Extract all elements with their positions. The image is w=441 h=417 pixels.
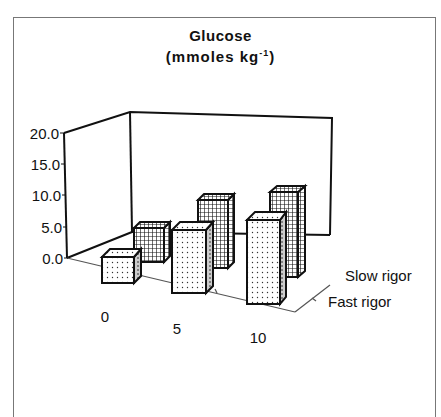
series-label-fast-rigor: Fast rigor xyxy=(328,293,391,310)
y-axis-labels: 20.0 15.0 10.0 5.0 0.0 xyxy=(30,125,63,267)
series-labels: Slow rigor Fast rigor xyxy=(328,267,412,310)
y-tick-label: 15.0 xyxy=(31,156,60,173)
bar-fast-10 xyxy=(247,212,286,304)
x-axis-labels: 0 5 10 xyxy=(101,308,267,346)
series-fast-rigor xyxy=(102,212,286,304)
y-tick-label: 0.0 xyxy=(42,250,63,267)
x-tick-label: 5 xyxy=(173,320,181,337)
bar-fast-5 xyxy=(172,222,213,293)
y-tick-label: 5.0 xyxy=(41,219,62,236)
series-label-slow-rigor: Slow rigor xyxy=(345,267,412,284)
bar-fast-0 xyxy=(102,249,141,283)
x-tick-label: 0 xyxy=(101,308,109,325)
y-tick-label: 20.0 xyxy=(30,125,59,142)
y-tick-label: 10.0 xyxy=(32,187,61,204)
x-tick-label: 10 xyxy=(250,329,267,346)
